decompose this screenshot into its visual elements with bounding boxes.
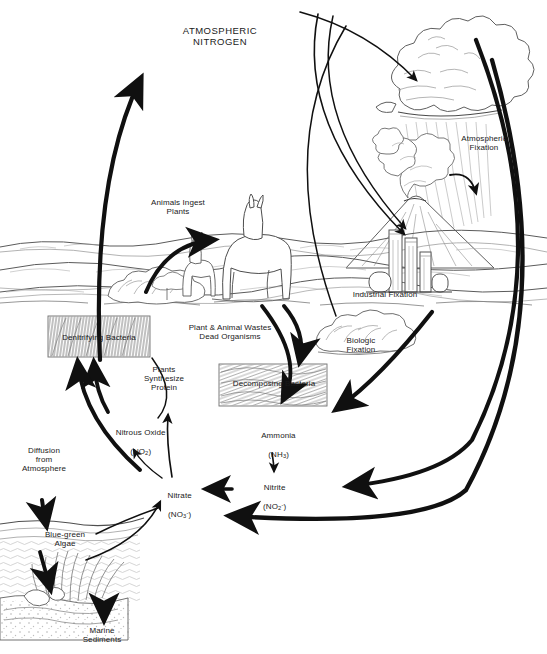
label-ammonia: Ammonia (NH3)	[238, 422, 310, 469]
label-plant-animal-wastes: Plant & Animal WastesDead Organisms	[160, 323, 300, 341]
label-diffusion-from-atmosphere: DiffusionfromAtmosphere	[4, 446, 84, 474]
ammonia-name: Ammonia	[261, 431, 296, 440]
nitrate-name: Nitrate	[168, 491, 192, 500]
page-title: ATMOSPHERICNITROGEN	[150, 26, 290, 48]
label-biologic-fixation: BiologicFixation	[324, 336, 398, 354]
arrow-biologic-to-ammonia	[338, 312, 432, 408]
nitrate-formula: (NO3-)	[168, 510, 191, 519]
arrow-diffusion-to-ocean	[42, 500, 46, 524]
nitrous-oxide-formula: (NO2)	[130, 447, 151, 456]
label-industrial-fixation: Industrial Fixation	[330, 290, 440, 299]
label-animals-ingest-plants: Animals IngestPlants	[126, 198, 230, 216]
arrow-denitrifying-to-atmosphere	[99, 80, 140, 360]
nitrous-oxide-name: Nitrous Oxide	[116, 428, 166, 437]
arrow-atmosphere-to-industrial	[314, 14, 404, 234]
label-nitrite: Nitrite (NO2-)	[236, 474, 304, 521]
arrow-atmosphere-to-nitrite	[350, 40, 518, 486]
arrow-algae-down	[40, 552, 50, 588]
label-nitrate: Nitrate (NO3-)	[142, 482, 208, 529]
label-decomposing-bacteria: Decomposing Bacteria	[222, 379, 326, 388]
label-atmospheric-fixation: AtmosphericFixation	[440, 134, 528, 152]
arrow-nitrous-to-denitrifying	[94, 364, 108, 412]
arrow-volcano-to-atmospheric-fixation	[450, 174, 476, 193]
arrow-atmosphere-to-cloud	[300, 12, 416, 80]
arrow-to-marine-sediments	[96, 600, 104, 618]
arrow-to-biologic-fixation	[307, 26, 346, 316]
nitrite-formula: (NO2-)	[263, 502, 286, 511]
arrow-to-industrial-fixation	[328, 16, 405, 228]
label-denitrifying-bacteria: Denitrifying Bacteria	[42, 333, 156, 342]
label-blue-green-algae: Blue-greenAlgae	[26, 530, 104, 548]
label-plants-synthesize-protein: PlantsSynthesizeProtein	[128, 365, 200, 393]
ammonia-formula: (NH3)	[268, 450, 289, 459]
nitrogen-cycle-diagram: ATMOSPHERICNITROGEN AtmosphericFixation …	[0, 0, 547, 654]
nitrite-name: Nitrite	[264, 483, 286, 492]
label-marine-sediments: MarineSediments	[62, 626, 142, 644]
arrow-plants-to-animals	[146, 240, 212, 292]
label-nitrous-oxide: Nitrous Oxide (NO2)	[96, 419, 176, 466]
